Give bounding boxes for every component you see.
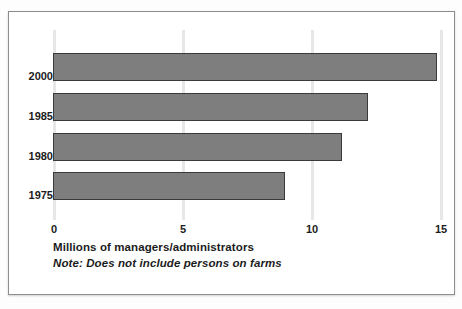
x-axis-label: Millions of managers/administrators xyxy=(53,241,254,253)
gridline-15 xyxy=(440,30,443,220)
bar-1985 xyxy=(53,93,368,121)
xtick-label-5: 5 xyxy=(180,223,186,235)
chart-frame: 2000 1985 1980 1975 0 5 10 15 Millions o… xyxy=(8,11,455,295)
bar-chart: 2000 1985 1980 1975 0 5 10 15 Millions o… xyxy=(9,12,456,296)
category-label-1975: 1975 xyxy=(15,189,53,201)
category-label-1985: 1985 xyxy=(15,110,53,122)
xtick-label-15: 15 xyxy=(435,223,447,235)
bar-1980 xyxy=(53,133,342,161)
category-label-1980: 1980 xyxy=(15,150,53,162)
category-label-2000: 2000 xyxy=(15,70,53,82)
bar-2000 xyxy=(53,53,437,81)
figure-page: 2000 1985 1980 1975 0 5 10 15 Millions o… xyxy=(0,0,462,309)
bar-1975 xyxy=(53,172,285,200)
xtick-label-0: 0 xyxy=(51,223,57,235)
xtick-label-10: 10 xyxy=(306,223,318,235)
chart-note: Note: Does not include persons on farms xyxy=(53,257,282,269)
